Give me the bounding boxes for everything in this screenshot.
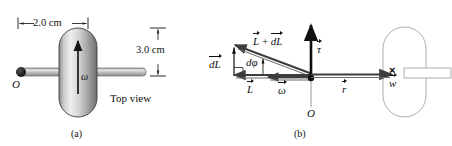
vector-dL-label-text: dL	[209, 59, 221, 70]
width-dimension-label: 2.0 cm	[33, 18, 62, 29]
panel-a-top-view-label: Top view	[110, 93, 151, 104]
vector-L-plus-dL-label-part2: dL	[271, 36, 283, 47]
panel-a-caption: (a)	[71, 129, 82, 139]
panel-b-origin-label: O	[307, 108, 315, 119]
figure-graphics	[0, 0, 452, 146]
vector-omega-label-text: ω	[278, 85, 286, 96]
vector-r-label-text: r	[342, 84, 346, 95]
vector-r-label: r	[342, 84, 346, 95]
panel-a-omega-label: ω	[81, 72, 88, 82]
vector-tau-label: τ	[317, 44, 321, 55]
panel-a-origin-label: O	[12, 79, 20, 90]
vector-L-label: L	[247, 84, 253, 95]
physics-figure: 2.0 cm 3.0 cm O ω Top view (a) dL L + dL…	[0, 0, 452, 146]
vector-r	[311, 75, 392, 78]
panel-a-rod-end-knob	[16, 67, 25, 76]
vector-L-plus-dL-label: L + dL	[253, 36, 282, 47]
panel-b-caption: (b)	[294, 129, 306, 139]
vector-omega-label: ω	[278, 85, 286, 96]
vector-dL-label: dL	[209, 59, 221, 70]
vector-L-plus-dL-label-part1: L	[253, 36, 259, 47]
vector-w-label-text: w	[389, 78, 396, 89]
height-dimension-label: 3.0 cm	[136, 45, 165, 56]
vector-w-label: w	[389, 78, 396, 89]
angle-dphi-label: dφ	[246, 57, 258, 68]
vector-L-label-text: L	[247, 84, 253, 95]
vector-tau-label-text: τ	[317, 44, 321, 55]
panel-b-rod	[404, 68, 451, 78]
